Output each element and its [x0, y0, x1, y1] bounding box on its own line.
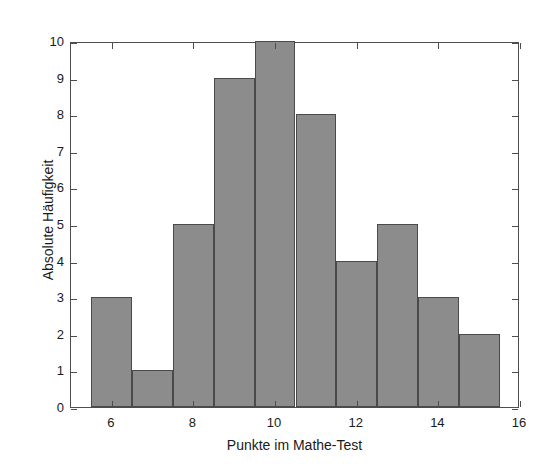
x-tick-mark [520, 43, 521, 49]
histogram-bar [214, 78, 255, 407]
histogram-bar [255, 41, 296, 407]
x-tick-mark [193, 43, 194, 49]
y-tick-mark [71, 409, 77, 410]
y-tick-label: 8 [34, 108, 64, 121]
histogram-bar [336, 261, 377, 407]
x-tick-mark [275, 401, 276, 407]
y-tick-label: 6 [34, 181, 64, 194]
x-tick-mark [193, 401, 194, 407]
y-axis-tick-labels: 012345678910 [30, 42, 64, 408]
histogram-figure: Absolute Häufigkeit 012345678910 6810121… [0, 0, 550, 466]
y-tick-label: 5 [34, 218, 64, 231]
histogram-bar [132, 370, 173, 407]
y-tick-mark [71, 263, 77, 264]
y-tick-mark [71, 299, 77, 300]
x-tick-label: 8 [172, 416, 212, 429]
y-tick-mark [71, 189, 77, 190]
x-tick-mark [520, 401, 521, 407]
y-tick-label: 3 [34, 291, 64, 304]
x-tick-mark [112, 43, 113, 49]
bars-layer [71, 43, 518, 407]
histogram-bar [296, 114, 337, 407]
x-tick-mark [112, 401, 113, 407]
y-tick-mark [512, 116, 518, 117]
y-tick-mark [71, 80, 77, 81]
histogram-bar [377, 224, 418, 407]
x-tick-label: 12 [336, 416, 376, 429]
y-tick-mark [71, 336, 77, 337]
x-axis-tick-labels: 6810121416 [70, 416, 519, 436]
x-tick-mark [438, 401, 439, 407]
y-tick-mark [512, 189, 518, 190]
histogram-bar [91, 297, 132, 407]
y-tick-mark [71, 226, 77, 227]
y-tick-label: 2 [34, 328, 64, 341]
histogram-bar [459, 334, 500, 407]
histogram-bar [173, 224, 214, 407]
y-tick-label: 4 [34, 255, 64, 268]
y-tick-label: 1 [34, 364, 64, 377]
x-tick-mark [357, 401, 358, 407]
y-tick-label: 9 [34, 72, 64, 85]
x-tick-label: 16 [499, 416, 539, 429]
plot-area [70, 42, 519, 408]
x-tick-label: 14 [417, 416, 457, 429]
x-tick-mark [357, 43, 358, 49]
x-tick-label: 6 [91, 416, 131, 429]
histogram-bar [418, 297, 459, 407]
y-tick-mark [71, 43, 77, 44]
x-tick-mark [438, 43, 439, 49]
x-axis-title: Punkte im Mathe-Test [70, 437, 519, 453]
y-tick-mark [71, 372, 77, 373]
y-tick-mark [512, 409, 518, 410]
y-tick-label: 10 [34, 35, 64, 48]
y-tick-mark [512, 372, 518, 373]
y-tick-label: 7 [34, 145, 64, 158]
y-tick-mark [512, 80, 518, 81]
y-tick-mark [512, 263, 518, 264]
y-tick-mark [71, 153, 77, 154]
y-tick-mark [512, 226, 518, 227]
y-tick-label: 0 [34, 401, 64, 414]
y-tick-mark [71, 116, 77, 117]
x-tick-label: 10 [254, 416, 294, 429]
y-tick-mark [512, 153, 518, 154]
y-tick-mark [512, 336, 518, 337]
y-tick-mark [512, 43, 518, 44]
y-tick-mark [512, 299, 518, 300]
x-tick-mark [275, 43, 276, 49]
